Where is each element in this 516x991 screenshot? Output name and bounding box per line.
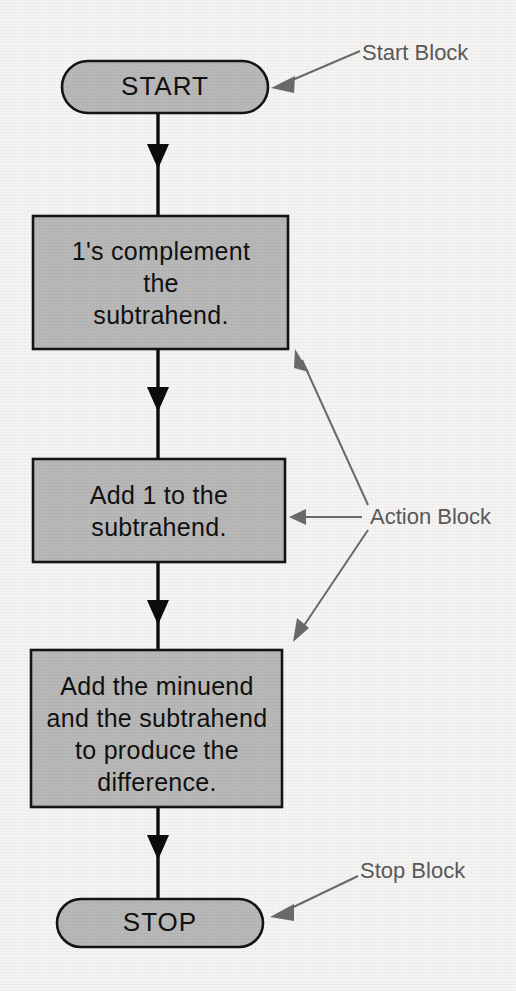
node-action-1[interactable]: 1's complement the subtrahend. (33, 216, 288, 349)
flowchart-canvas: START 1's complement the subtrahend. Add… (0, 0, 516, 991)
action-block-arrowhead-upper (294, 349, 309, 372)
start-block-label: Start Block (362, 40, 469, 65)
stop-block-label: Stop Block (360, 858, 466, 883)
node-start[interactable]: START (62, 61, 268, 113)
action-2-line-1: Add 1 to the (90, 481, 228, 509)
action-2-line-2: subtrahend. (91, 513, 226, 541)
action-2-process-shape (33, 459, 285, 562)
action-1-line-3: subtrahend. (93, 301, 228, 329)
action-block-leader-line-lower (301, 530, 368, 630)
action-3-line-1: Add the minuend (60, 672, 254, 700)
action-3-line-2: and the subtrahend (47, 704, 268, 732)
action-3-line-4: difference. (97, 768, 217, 796)
connector-action-1-to-action-2 (147, 349, 169, 459)
node-action-3[interactable]: Add the minuend and the subtrahend to pr… (31, 650, 282, 807)
start-terminal-label: START (121, 71, 209, 101)
annotation-action-block: Action Block (289, 349, 492, 642)
stop-block-leader-line (283, 876, 358, 912)
connector-action-2-to-action-3 (147, 562, 169, 650)
flowchart-page: START 1's complement the subtrahend. Add… (0, 0, 516, 991)
node-action-2[interactable]: Add 1 to the subtrahend. (33, 459, 285, 562)
connector-action-3-to-stop (147, 807, 169, 901)
action-block-label: Action Block (370, 504, 492, 529)
action-block-leader-line-upper (302, 360, 368, 505)
annotation-stop-block: Stop Block (270, 858, 466, 921)
annotation-start-block: Start Block (271, 40, 469, 93)
node-stop[interactable]: STOP (57, 899, 263, 947)
connector-start-to-action-1 (147, 111, 169, 216)
action-3-line-3: to produce the (75, 736, 239, 764)
action-block-arrowhead-middle (289, 509, 306, 525)
start-block-arrowhead (271, 76, 295, 93)
action-1-line-2: the (143, 269, 179, 297)
action-1-line-1: 1's complement (72, 237, 251, 265)
stop-terminal-label: STOP (123, 907, 197, 937)
stop-block-arrowhead (270, 904, 294, 921)
